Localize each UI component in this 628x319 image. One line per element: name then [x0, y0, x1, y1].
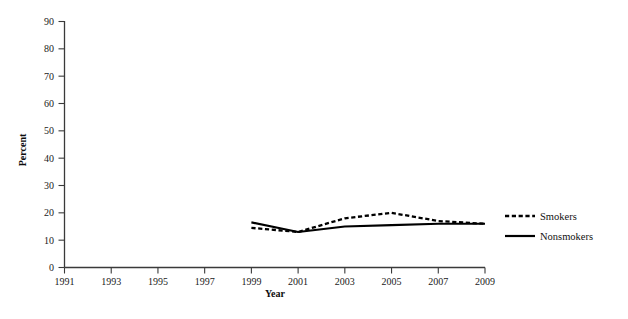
y-tick-label: 20 [44, 207, 54, 218]
y-tick-label: 90 [44, 16, 54, 27]
data-series-group [251, 213, 485, 232]
x-axis-title: Year [265, 288, 286, 299]
y-tick-label: 30 [44, 180, 54, 191]
y-tick-label: 80 [44, 43, 54, 54]
y-tick-label: 0 [49, 262, 54, 273]
y-tick-label: 60 [44, 98, 54, 109]
x-tick-label: 1991 [55, 276, 75, 287]
chart-container: Percent 0102030405060708090 199119931995… [0, 0, 628, 319]
x-tick-label: 2007 [428, 276, 448, 287]
chart-legend: SmokersNonsmokers [505, 211, 593, 242]
x-axis-tick-labels: 1991199319951997199920012003200520072009 [55, 276, 496, 287]
legend-label-smokers: Smokers [540, 211, 577, 222]
x-tick-label: 2009 [475, 276, 495, 287]
series-line-nonsmokers [251, 222, 485, 232]
y-axis-tick-labels: 0102030405060708090 [44, 16, 54, 273]
y-tick-label: 70 [44, 71, 54, 82]
x-tick-label: 1999 [241, 276, 261, 287]
x-tick-label: 1995 [148, 276, 168, 287]
y-axis-title: Percent [17, 133, 28, 166]
y-tick-label: 50 [44, 125, 54, 136]
y-tick-label: 40 [44, 153, 54, 164]
legend-label-nonsmokers: Nonsmokers [540, 231, 593, 242]
line-chart: Percent 0102030405060708090 199119931995… [0, 0, 628, 319]
x-tick-label: 2001 [288, 276, 308, 287]
x-tick-label: 2003 [335, 276, 355, 287]
y-tick-label: 10 [44, 235, 54, 246]
x-tick-label: 2005 [382, 276, 402, 287]
x-tick-label: 1997 [195, 276, 215, 287]
y-axis-ticks [59, 22, 65, 268]
x-axis-ticks [65, 268, 486, 274]
x-tick-label: 1993 [101, 276, 121, 287]
